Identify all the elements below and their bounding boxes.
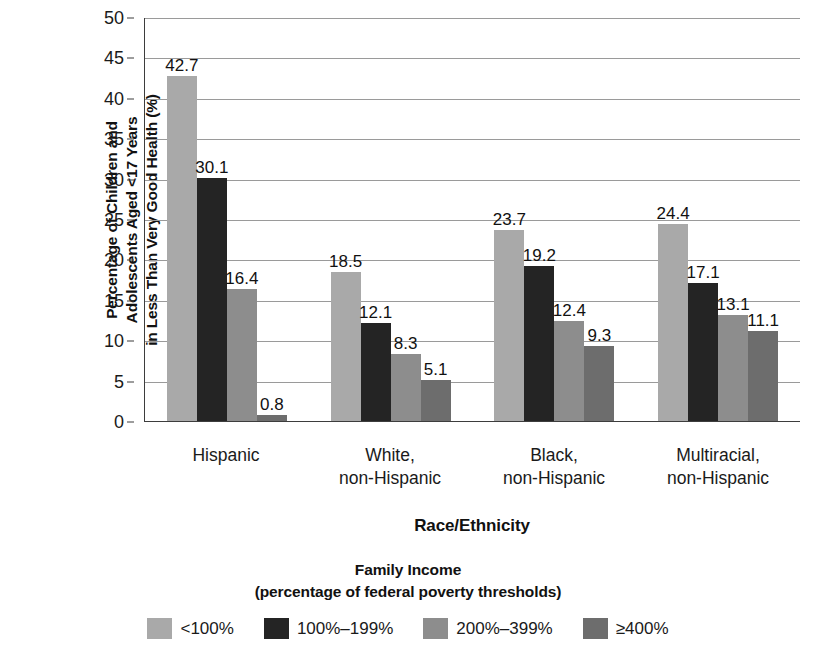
x-tick-label-line: White, — [308, 444, 472, 467]
bar-value-label: 42.7 — [165, 57, 198, 74]
legend-label: ≥400% — [616, 619, 669, 639]
legend-swatch — [147, 618, 172, 639]
x-tick-label-line: Multiracial, — [636, 444, 800, 467]
bar-value-label: 30.1 — [195, 159, 228, 176]
bar-groups: 42.730.116.40.818.512.18.35.123.719.212.… — [145, 18, 800, 421]
bar[interactable]: 0.8 — [257, 415, 287, 421]
bar-value-label: 17.1 — [687, 264, 720, 281]
legend-item[interactable]: <100% — [147, 618, 233, 639]
y-tick-mark — [127, 179, 134, 180]
y-tick-mark — [127, 341, 134, 342]
bar-value-label: 9.3 — [588, 327, 612, 344]
x-tick-label-line: Black, — [472, 444, 636, 467]
y-tick-label: 30 — [104, 169, 124, 190]
y-tick-label: 10 — [104, 331, 124, 352]
legend-item[interactable]: 200%–399% — [423, 618, 552, 639]
legend-title-line-1: Family Income — [0, 559, 816, 581]
plot-container: 05101520253035404550 42.730.116.40.818.5… — [88, 18, 800, 440]
x-tick-label: White,non-Hispanic — [308, 444, 472, 490]
bar[interactable]: 11.1 — [748, 331, 778, 421]
bar[interactable]: 19.2 — [524, 266, 554, 421]
legend-label: 100%–199% — [297, 619, 393, 639]
x-tick-label: Hispanic — [144, 444, 308, 490]
plot-area: 42.730.116.40.818.512.18.35.123.719.212.… — [144, 18, 800, 422]
x-tick-label-line: non-Hispanic — [308, 467, 472, 490]
legend-label: 200%–399% — [456, 619, 552, 639]
bar[interactable]: 18.5 — [331, 272, 361, 421]
bar-value-label: 0.8 — [260, 396, 284, 413]
y-axis-title-container: Percentage of Children and Adolescents A… — [0, 0, 88, 440]
y-tick-label: 0 — [114, 412, 124, 433]
bar-group: 18.512.18.35.1 — [309, 18, 473, 421]
y-tick-mark — [127, 381, 134, 382]
x-tick-label-line: non-Hispanic — [636, 467, 800, 490]
y-tick-mark — [127, 98, 134, 99]
y-tick-mark — [127, 18, 134, 19]
bar-group: 24.417.113.111.1 — [636, 18, 800, 421]
bar-value-label: 18.5 — [329, 253, 362, 270]
bar[interactable]: 8.3 — [391, 354, 421, 421]
y-tick-label: 5 — [114, 371, 124, 392]
bar-value-label: 8.3 — [394, 335, 418, 352]
legend-swatch — [423, 618, 448, 639]
bar[interactable]: 16.4 — [227, 289, 257, 422]
bar-value-label: 11.1 — [747, 312, 779, 329]
bar[interactable]: 17.1 — [688, 283, 718, 421]
bar-value-label: 24.4 — [657, 205, 690, 222]
y-tick-label: 50 — [104, 8, 124, 29]
legend-swatch — [264, 618, 289, 639]
x-tick-label-line: Hispanic — [144, 444, 308, 467]
bar[interactable]: 12.1 — [361, 323, 391, 421]
bar[interactable]: 13.1 — [718, 315, 748, 421]
x-tick-label: Black,non-Hispanic — [472, 444, 636, 490]
y-tick-mark — [127, 220, 134, 221]
y-tick-mark — [127, 58, 134, 59]
bar-value-label: 23.7 — [493, 211, 526, 228]
legend-label: <100% — [180, 619, 233, 639]
bar-value-label: 13.1 — [717, 296, 750, 313]
y-tick-mark — [127, 300, 134, 301]
bar[interactable]: 9.3 — [584, 346, 614, 421]
bar[interactable]: 30.1 — [197, 178, 227, 421]
y-axis-ticks: 05101520253035404550 — [88, 18, 134, 440]
y-tick-label: 25 — [104, 210, 124, 231]
legend-title-line-2: (percentage of federal poverty threshold… — [0, 581, 816, 603]
bar-value-label: 16.4 — [225, 270, 258, 287]
bar-group: 23.719.212.49.3 — [473, 18, 637, 421]
y-tick-label: 45 — [104, 48, 124, 69]
y-tick-mark — [127, 139, 134, 140]
y-tick-label: 15 — [104, 290, 124, 311]
bar-group: 42.730.116.40.8 — [145, 18, 309, 421]
x-tick-label-line: non-Hispanic — [472, 467, 636, 490]
bar[interactable]: 24.4 — [658, 224, 688, 421]
x-axis-title: Race/Ethnicity — [144, 516, 800, 536]
bar-chart-figure: Percentage of Children and Adolescents A… — [0, 0, 816, 661]
bar-value-label: 12.4 — [553, 302, 586, 319]
bar[interactable]: 5.1 — [421, 380, 451, 421]
y-tick-label: 35 — [104, 129, 124, 150]
bar[interactable]: 23.7 — [494, 230, 524, 421]
bar[interactable]: 12.4 — [554, 321, 584, 421]
bar-value-label: 5.1 — [424, 361, 448, 378]
legend-title: Family Income (percentage of federal pov… — [0, 559, 816, 603]
bar[interactable]: 42.7 — [167, 76, 197, 421]
bar-value-label: 19.2 — [523, 247, 556, 264]
y-tick-label: 20 — [104, 250, 124, 271]
x-axis-tick-labels: HispanicWhite,non-HispanicBlack,non-Hisp… — [144, 444, 800, 490]
legend-swatch — [583, 618, 608, 639]
legend-item[interactable]: 100%–199% — [264, 618, 393, 639]
legend: <100%100%–199%200%–399%≥400% — [0, 618, 816, 639]
legend-item[interactable]: ≥400% — [583, 618, 669, 639]
x-tick-label: Multiracial,non-Hispanic — [636, 444, 800, 490]
y-tick-mark — [127, 260, 134, 261]
y-tick-label: 40 — [104, 88, 124, 109]
y-tick-mark — [127, 422, 134, 423]
bar-value-label: 12.1 — [359, 304, 392, 321]
